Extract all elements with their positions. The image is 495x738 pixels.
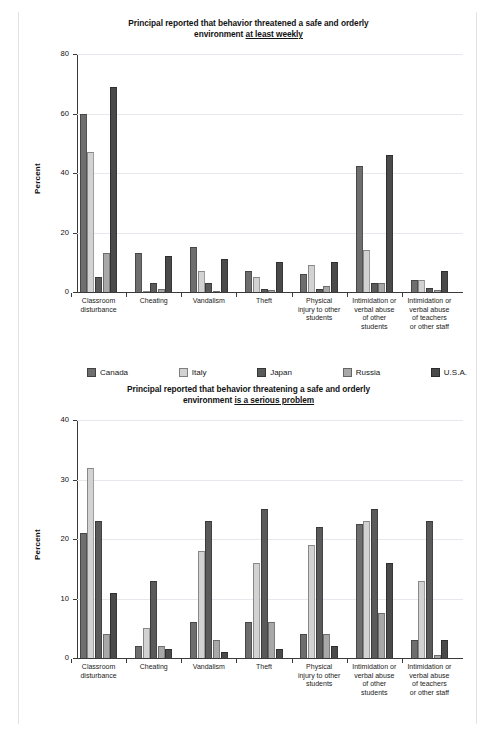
gridline [77,599,463,600]
bar [276,649,283,658]
legend-item-canada[interactable]: Canada [87,368,128,377]
y-tick-label: 0 [43,654,69,662]
bar [356,166,363,292]
bar [434,290,441,292]
x-category-label: Vandalism [181,297,236,306]
gridline [77,114,463,115]
bar [323,286,330,292]
bar [356,524,363,658]
x-category-line: Physical [306,663,332,670]
y-tick-label: 80 [43,50,69,58]
legend-swatch-icon [431,368,440,377]
y-tick-mark [73,599,77,600]
x-category-line: of other [362,680,386,687]
bar [441,271,448,292]
y-tick-mark [73,539,77,540]
y-tick-mark [73,658,77,659]
x-category-line: Intimidation or [352,297,396,304]
x-category-line: Intimidation or [352,663,396,670]
x-category-line: verbal abuse [354,672,394,679]
legend-swatch-icon [257,368,266,377]
bar [245,622,252,658]
bar [300,274,307,292]
bar [190,247,197,292]
bar [261,509,268,658]
bar [261,289,268,292]
bar [80,533,87,658]
y-tick-mark [73,114,77,115]
x-category-line: students [306,680,332,687]
bar [316,527,323,658]
y-tick-label: 20 [43,535,69,543]
legend-swatch-icon [87,368,96,377]
bar [245,271,252,292]
bar [411,640,418,658]
bar [198,551,205,658]
legend-label: Japan [270,368,292,377]
x-category-line: Intimidation or [407,663,451,670]
chart-title-serious: Principal reported that behavior threate… [39,384,458,406]
y-tick-label: 60 [43,110,69,118]
bar [308,545,315,658]
legend-item-japan[interactable]: Japan [257,368,292,377]
bar [308,265,315,292]
y-tick-label: 10 [43,595,69,603]
y-tick-mark [73,233,77,234]
x-category-line: verbal abuse [409,306,449,313]
bar [323,634,330,658]
legend-label: Russia [356,368,380,377]
x-category-line: injury to other [298,672,340,679]
bar [103,634,110,658]
legend-item-italy[interactable]: Italy [179,368,207,377]
y-tick-mark [73,173,77,174]
bar [135,253,142,292]
bar [143,291,150,292]
y-tick-label: 0 [43,288,69,296]
bar [331,646,338,658]
y-tick-label: 40 [43,416,69,424]
bar [205,521,212,658]
gridline [77,480,463,481]
x-category-line: disturbance [80,672,116,679]
bar [378,613,385,658]
bar [190,622,197,658]
x-category-label: Classroomdisturbance [71,663,126,680]
bar [95,277,102,292]
legend-label: Canada [100,368,128,377]
bar [143,628,150,658]
chart-title-line2-plain: environment [194,29,246,39]
x-category-line: or other staff [410,689,449,696]
x-category-label: Classroomdisturbance [71,297,126,314]
legend-item-russia[interactable]: Russia [343,368,380,377]
x-category-line: of teachers [412,680,447,687]
y-tick-label: 40 [43,169,69,177]
x-category-line: Theft [256,297,272,304]
bar [378,283,385,292]
x-category-line: verbal abuse [354,306,394,313]
gridline [77,173,463,174]
x-category-label: Intimidation orverbal abuseof teachersor… [402,297,457,331]
y-tick-mark [73,480,77,481]
bar [386,563,393,658]
bar [426,288,433,292]
bar [158,646,165,658]
bar [253,277,260,292]
bar [150,581,157,658]
bar [331,262,338,292]
legend-item-usa[interactable]: U.S.A. [431,368,467,377]
bar [418,280,425,292]
x-category-line: disturbance [80,306,116,313]
bar [213,640,220,658]
x-category-line: or other staff [410,323,449,330]
bar [213,291,220,292]
y-tick-mark [73,292,77,293]
bar [253,563,260,658]
bar [135,646,142,658]
x-category-line: verbal abuse [409,672,449,679]
x-category-line: Physical [306,297,332,304]
x-category-label: Vandalism [181,663,236,672]
bar [95,521,102,658]
legend-label: U.S.A. [444,368,467,377]
bar [205,283,212,292]
x-category-line: Classroom [82,297,115,304]
